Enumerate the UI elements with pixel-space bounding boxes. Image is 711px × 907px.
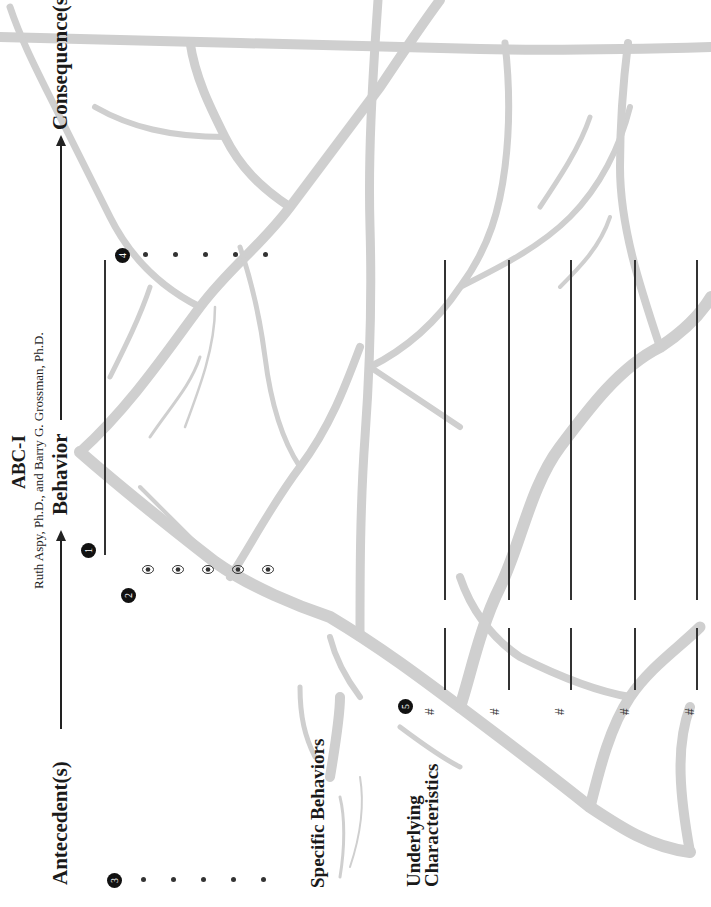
eye-icon[interactable] xyxy=(172,565,184,574)
worksheet-title: ABC-I xyxy=(8,435,30,489)
eye-icon[interactable] xyxy=(262,565,274,574)
consequence-label: Consequence(s) xyxy=(50,0,71,130)
right-arrow-icon xyxy=(56,135,66,146)
antecedent-bullet[interactable] xyxy=(201,877,206,882)
consequence-bullet[interactable] xyxy=(143,252,148,257)
consequence-bullet[interactable] xyxy=(233,252,238,257)
antecedent-bullet[interactable] xyxy=(171,877,176,882)
badge-1: 1 xyxy=(81,543,96,558)
consequence-bullet[interactable] xyxy=(203,252,208,257)
row-number-hash: # xyxy=(619,708,631,715)
authors-line: Ruth Aspy, Ph.D., and Barry G. Grossman,… xyxy=(31,332,47,589)
iceberg-tree-illustration xyxy=(0,0,711,907)
behavior-to-consequence-arrow-line xyxy=(60,144,62,420)
characteristic-long-line[interactable] xyxy=(508,260,510,600)
badge-4: 4 xyxy=(115,248,130,263)
row-number-hash: # xyxy=(554,708,566,715)
antecedent-bullet[interactable] xyxy=(141,877,146,882)
row-number-hash: # xyxy=(424,708,436,715)
badge-2: 2 xyxy=(121,588,136,603)
underlying-characteristics-label: Underlying Characteristics xyxy=(405,764,441,887)
row-number-hash: # xyxy=(489,708,501,715)
characteristic-short-line[interactable] xyxy=(696,628,698,690)
characteristic-long-line[interactable] xyxy=(444,260,446,600)
characteristic-long-line[interactable] xyxy=(696,260,698,600)
row-number-hash: # xyxy=(684,708,696,715)
characteristic-short-line[interactable] xyxy=(444,628,446,690)
underlying-label-line2: Characteristics xyxy=(423,764,441,887)
antecedent-label: Antecedent(s) xyxy=(50,761,71,885)
badge-5: 5 xyxy=(398,699,413,714)
specific-behaviors-label: Specific Behaviors xyxy=(309,739,327,888)
consequence-bullet[interactable] xyxy=(263,252,268,257)
consequence-bullet[interactable] xyxy=(173,252,178,257)
right-arrow-icon xyxy=(56,530,66,541)
antecedent-to-behavior-arrow-line xyxy=(60,539,62,729)
antecedent-bullet[interactable] xyxy=(261,877,266,882)
eye-icon[interactable] xyxy=(142,565,154,574)
characteristic-long-line[interactable] xyxy=(570,260,572,600)
behavior-entry-line[interactable] xyxy=(104,260,106,555)
abc-i-worksheet-page: ABC-I Ruth Aspy, Ph.D., and Barry G. Gro… xyxy=(0,0,711,907)
behavior-label: Behavior xyxy=(50,433,71,515)
characteristic-short-line[interactable] xyxy=(570,628,572,690)
eye-icon[interactable] xyxy=(202,565,214,574)
characteristic-short-line[interactable] xyxy=(508,628,510,690)
eye-icon[interactable] xyxy=(232,565,244,574)
characteristic-long-line[interactable] xyxy=(634,260,636,600)
characteristic-short-line[interactable] xyxy=(634,628,636,690)
antecedent-bullet[interactable] xyxy=(231,877,236,882)
badge-3: 3 xyxy=(107,873,122,888)
